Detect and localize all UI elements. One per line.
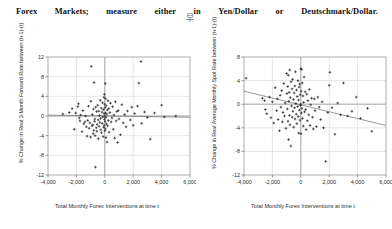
svg-text:6,000: 6,000 xyxy=(183,179,196,185)
svg-text:-4,000: -4,000 xyxy=(236,179,251,185)
svg-text:-4: -4 xyxy=(39,133,44,139)
svg-text:4,000: 4,000 xyxy=(155,179,169,185)
svg-text:-12: -12 xyxy=(36,172,44,178)
svg-text:4,000: 4,000 xyxy=(351,179,365,185)
heading-word: either xyxy=(155,6,177,17)
svg-text:0: 0 xyxy=(237,101,240,107)
svg-text:-2,000: -2,000 xyxy=(265,179,280,185)
svg-text:-4,000: -4,000 xyxy=(40,179,55,185)
heading-word: Deutschmark/Dollar. xyxy=(301,6,378,17)
heading-word: in xyxy=(194,6,201,17)
page-title: Forex Markets; measure either in Yen/Dol… xyxy=(16,6,378,17)
svg-text:0: 0 xyxy=(299,179,302,185)
svg-text:2,000: 2,000 xyxy=(322,179,336,185)
chart-plot-area: 840-4-8-12-4,000-2,00002,0004,0006,000 xyxy=(196,28,392,226)
heading-word: Forex xyxy=(16,6,37,17)
svg-text:8: 8 xyxy=(237,54,240,60)
svg-text:-2,000: -2,000 xyxy=(69,179,84,185)
svg-text:-8: -8 xyxy=(39,152,44,158)
document-page: Forex Markets; measure either in Yen/Dol… xyxy=(0,0,392,229)
chart-forward-rate-scatter: % Change in Real 3-Month Forward Rate be… xyxy=(0,28,196,226)
chart-plot-area: 12840-4-8-12-4,000-2,00002,0004,0006,000 xyxy=(0,28,196,226)
svg-text:8: 8 xyxy=(41,74,44,80)
svg-text:6,000: 6,000 xyxy=(379,179,392,185)
heading-word: Markets; xyxy=(55,6,89,17)
svg-text:12: 12 xyxy=(38,54,44,60)
chart-spot-rate-scatter: % Change in Real Average Monthly Spot Ra… xyxy=(196,28,392,226)
svg-text:-8: -8 xyxy=(235,148,240,154)
heading-word: Yen/Dollar xyxy=(218,6,258,17)
stray-glyph-artifact: 早 xyxy=(186,14,194,24)
svg-text:0: 0 xyxy=(41,113,44,119)
svg-text:4: 4 xyxy=(41,93,44,99)
heading-word: measure xyxy=(106,6,137,17)
svg-text:4: 4 xyxy=(237,78,240,84)
heading-word: or xyxy=(276,6,284,17)
svg-text:-12: -12 xyxy=(232,172,240,178)
svg-text:0: 0 xyxy=(103,179,106,185)
svg-text:2,000: 2,000 xyxy=(126,179,140,185)
svg-text:-4: -4 xyxy=(235,125,240,131)
